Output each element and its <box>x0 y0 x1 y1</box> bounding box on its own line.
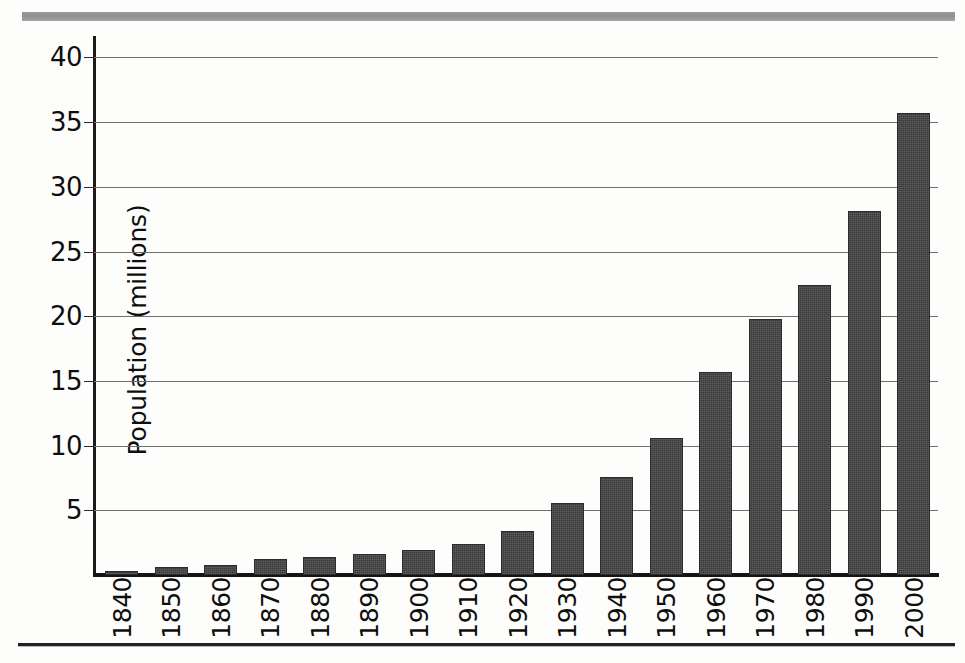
y-axis-tick-label: 30 <box>50 174 82 200</box>
x-axis-tick-label-text: 1910 <box>456 577 481 639</box>
x-axis-tick-label-text: 1980 <box>802 577 827 639</box>
x-axis-tick-label-text: 1970 <box>753 577 778 639</box>
x-axis-tick-label-text: 1880 <box>307 577 332 639</box>
bar <box>155 567 188 575</box>
y-axis-tick-label: 15 <box>50 368 82 394</box>
bar <box>105 571 138 575</box>
x-axis-tick-label: 1860 <box>195 577 247 633</box>
y-axis-tick-label: 5 <box>66 497 82 523</box>
bar <box>650 438 683 575</box>
x-axis-tick-label: 1850 <box>145 577 197 633</box>
bar <box>402 550 435 575</box>
x-axis-tick-label: 1910 <box>442 577 494 633</box>
x-axis-tick-label-text: 2000 <box>901 577 926 639</box>
x-axis-tick-label-text: 1930 <box>555 577 580 639</box>
bar <box>303 557 336 575</box>
x-axis-tick-label: 1940 <box>591 577 643 633</box>
plot-area: 510152025303540 <box>93 38 938 577</box>
bar <box>848 211 881 575</box>
figure-page: Population (millions) 510152025303540 18… <box>0 0 965 663</box>
bar <box>501 531 534 575</box>
bar <box>749 319 782 575</box>
x-axis-tick-label: 1920 <box>492 577 544 633</box>
bar <box>254 559 287 575</box>
x-axis-tick-label-text: 1840 <box>109 577 134 639</box>
x-axis-tick-label-text: 1900 <box>406 577 431 639</box>
x-axis-tick-label: 1840 <box>96 577 148 633</box>
x-axis-tick-label-text: 1960 <box>703 577 728 639</box>
bar <box>551 503 584 575</box>
bar <box>204 565 237 575</box>
y-axis-tick-label: 35 <box>50 109 82 135</box>
x-axis-tick-labels: 1840185018601870188018901900191019201930… <box>93 577 938 637</box>
bottom-rule-divider <box>18 643 955 646</box>
x-axis-tick-label: 1870 <box>244 577 296 633</box>
x-axis-tick-label-text: 1850 <box>159 577 184 639</box>
y-axis-title-container: Population (millions) <box>0 120 46 540</box>
x-axis-tick-label-text: 1940 <box>604 577 629 639</box>
x-axis-tick-label: 2000 <box>888 577 940 633</box>
x-axis-tick-label: 1930 <box>541 577 593 633</box>
x-axis-tick-label-text: 1920 <box>505 577 530 639</box>
bar <box>699 372 732 575</box>
x-axis-tick-label: 1900 <box>393 577 445 633</box>
x-axis-tick-label-text: 1870 <box>258 577 283 639</box>
bar <box>897 113 930 575</box>
y-axis-tick-label: 20 <box>50 303 82 329</box>
x-axis-tick-label-text: 1890 <box>357 577 382 639</box>
bar <box>452 544 485 575</box>
bar <box>798 285 831 575</box>
y-axis-tick-label: 25 <box>50 239 82 265</box>
x-axis-tick-label: 1980 <box>789 577 841 633</box>
bars-group <box>93 38 938 575</box>
x-axis-tick-label: 1970 <box>739 577 791 633</box>
bar-chart: Population (millions) 510152025303540 18… <box>0 0 965 663</box>
x-axis-tick-label-text: 1950 <box>654 577 679 639</box>
x-axis-tick-label: 1880 <box>294 577 346 633</box>
x-axis-tick-label: 1960 <box>690 577 742 633</box>
y-axis-tick-label: 40 <box>50 44 82 70</box>
y-axis-tick-label: 10 <box>50 433 82 459</box>
x-axis-tick-label: 1890 <box>343 577 395 633</box>
x-axis-tick-label-text: 1990 <box>852 577 877 639</box>
x-axis-tick-label: 1950 <box>640 577 692 633</box>
bar <box>353 554 386 575</box>
x-axis-tick-label: 1990 <box>838 577 890 633</box>
x-axis-tick-label-text: 1860 <box>208 577 233 639</box>
bar <box>600 477 633 575</box>
